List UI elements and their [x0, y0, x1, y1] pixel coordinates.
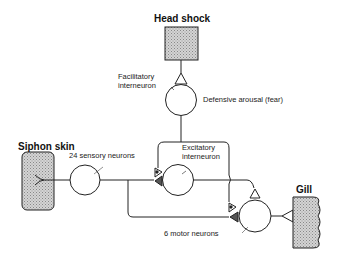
- facilitatory-label-2: interneuron: [118, 82, 156, 90]
- synapse-excitatory-motor: [250, 189, 260, 198]
- motor-neuron-cell: [239, 200, 271, 232]
- siphon-skin-label: Siphon skin: [18, 141, 75, 152]
- diagram-canvas: Head shock Facilitatory interneuron Defe…: [0, 0, 337, 253]
- sensory-neuron-cell: [70, 165, 100, 195]
- sensory-synapse-motor: [230, 212, 238, 222]
- synapse-motor-gill: [282, 210, 293, 222]
- excitatory-label-1: Excitatory: [182, 144, 215, 152]
- facilitatory-interneuron-cell: [166, 85, 197, 116]
- sensory-synapse-excitatory: [155, 176, 162, 186]
- circuit-drawing: [0, 0, 337, 253]
- sensory-neurons-label: 24 sensory neurons: [69, 152, 135, 160]
- head-shock-box: [165, 27, 198, 60]
- excitatory-interneuron-cell: [163, 165, 194, 196]
- motor-neurons-label: 6 motor neurons: [164, 230, 219, 238]
- excitatory-label-2: interneuron: [182, 153, 220, 161]
- facilitatory-label-1: Facilitatory: [118, 73, 154, 81]
- defensive-arousal-label: Defensive arousal (fear): [203, 96, 283, 104]
- siphon-skin-box: [22, 152, 54, 210]
- synapse-head-facilitatory: [175, 73, 187, 84]
- head-shock-label: Head shock: [154, 13, 210, 24]
- gill-label: Gill: [296, 184, 312, 195]
- gill-box: [293, 197, 320, 248]
